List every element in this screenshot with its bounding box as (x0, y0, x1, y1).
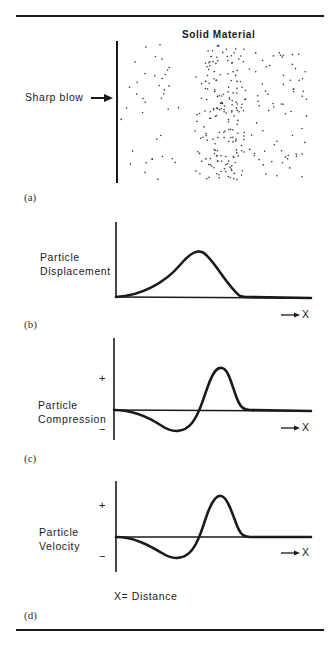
x-axis-label: X (302, 421, 310, 433)
compression-ylabel: Particle Compression (38, 398, 106, 426)
caption-b: (b) (24, 318, 37, 330)
minus-sign: − (99, 550, 105, 562)
caption-c: (c) (24, 452, 36, 464)
caption-a: (a) (24, 191, 36, 203)
displacement-ylabel: Particle Displacement (40, 250, 111, 278)
x-axis-label: X (302, 546, 310, 558)
particle-dots (120, 44, 307, 181)
x-arrow-icon (281, 426, 300, 431)
plus-sign: + (99, 499, 105, 511)
x-arrow-icon (281, 551, 300, 556)
x-arrow-icon (281, 313, 300, 318)
sharp-blow-label: Sharp blow (25, 91, 84, 103)
ylabel-line-1: Particle (39, 525, 80, 539)
ylabel-line-1: Particle (38, 398, 106, 412)
ylabel-line-2: Displacement (40, 264, 111, 278)
ylabel-line-1: Particle (40, 250, 111, 264)
sharp-blow-arrow-icon (91, 94, 113, 102)
plus-sign: + (99, 372, 105, 384)
caption-d: (d) (24, 609, 37, 621)
compression-plot (114, 338, 311, 440)
distance-legend: X= Distance (114, 590, 178, 602)
displacement-plot (116, 222, 311, 318)
ylabel-line-2: Compression (38, 412, 106, 426)
solid-material-label: Solid Material (182, 29, 255, 40)
ylabel-line-2: Velocity (39, 539, 80, 553)
velocity-plot (116, 481, 311, 572)
velocity-ylabel: Particle Velocity (39, 525, 80, 553)
x-axis-label: X (302, 308, 310, 320)
